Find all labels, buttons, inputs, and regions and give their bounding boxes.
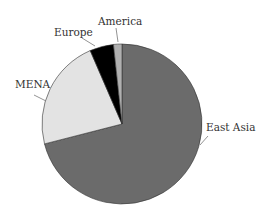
label-mena: MENA — [15, 78, 51, 90]
label-america: America — [97, 15, 142, 27]
pie-slices — [42, 44, 202, 204]
leader-line-america — [116, 28, 118, 42]
pie-chart: America Europe MENA East Asia — [0, 0, 260, 216]
leader-line-europe — [82, 38, 95, 46]
leader-line-mena — [34, 95, 46, 101]
label-east-asia: East Asia — [206, 121, 255, 133]
label-europe: Europe — [54, 26, 93, 38]
